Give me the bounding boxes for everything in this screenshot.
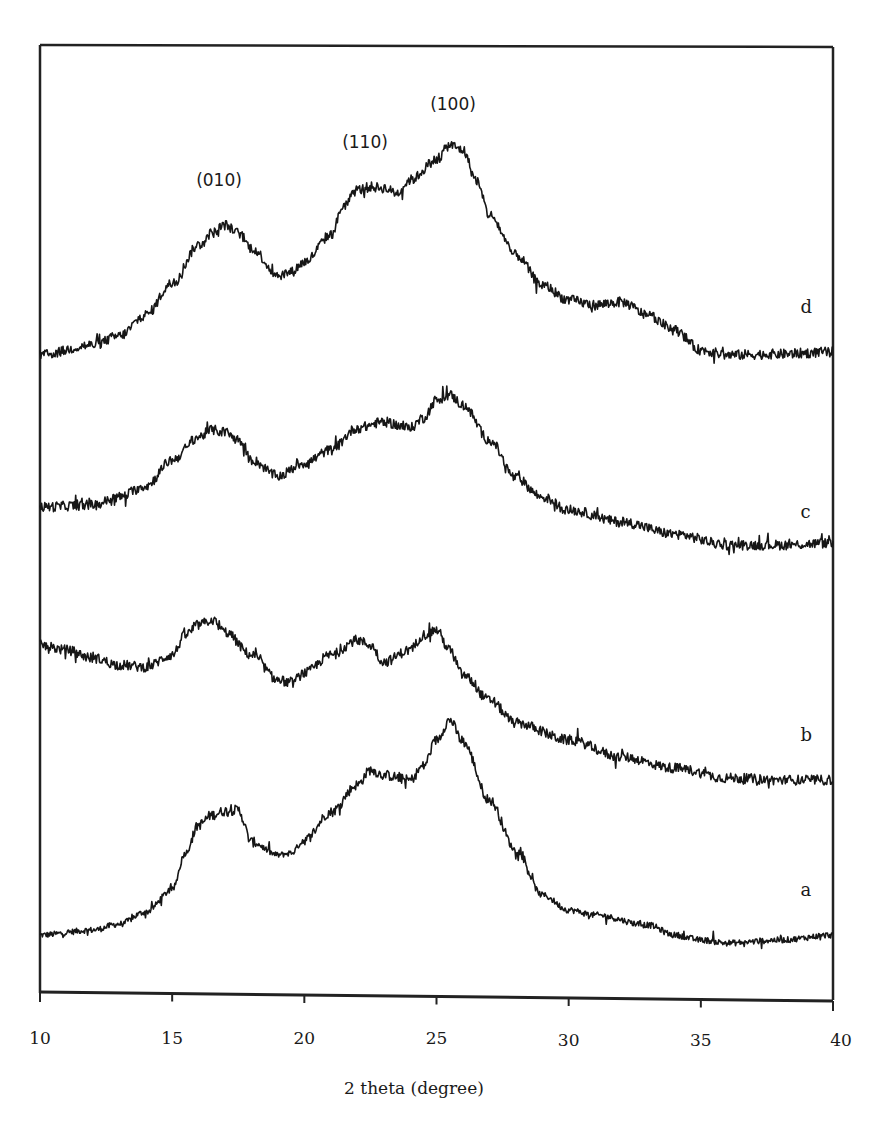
- curve-label-c: c: [801, 501, 811, 522]
- peak-annotations: (010)(110)(100): [196, 94, 476, 190]
- x-tick-label: 10: [29, 1028, 51, 1048]
- curve-c: [40, 386, 833, 555]
- diffraction-curves: abcd: [40, 142, 833, 949]
- xrd-chart: 10152025303540 abcd (010)(110)(100) 2 th…: [0, 0, 876, 1124]
- curve-a: [40, 719, 833, 949]
- x-tick-label: 25: [426, 1028, 448, 1048]
- curve-label-b: b: [801, 724, 813, 745]
- curve-label-a: a: [801, 879, 812, 900]
- x-tick-label: 20: [294, 1028, 316, 1048]
- peak-label: (100): [430, 94, 476, 114]
- x-tick-label: 35: [690, 1030, 712, 1050]
- curve-d: [40, 142, 833, 363]
- x-tick-label: 30: [558, 1030, 580, 1050]
- x-tick-label: 15: [161, 1028, 183, 1048]
- x-axis-title: 2 theta (degree): [344, 1078, 484, 1098]
- curve-b: [40, 617, 833, 788]
- plot-frame: [40, 45, 833, 1001]
- x-tick-label: 40: [830, 1030, 852, 1050]
- peak-label: (010): [196, 170, 242, 190]
- curve-label-d: d: [801, 296, 813, 317]
- frame-top: [40, 45, 833, 47]
- peak-label: (110): [342, 132, 388, 152]
